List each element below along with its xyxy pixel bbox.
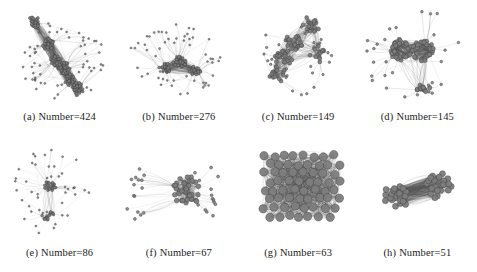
graph-nodes [263,16,333,96]
panel-label: Number=424 [38,111,96,122]
graph-edges [367,12,458,97]
panel-label: Number=63 [280,247,332,258]
graph-panel-e: (e)Number=86 [0,136,119,272]
network-graph-h [358,136,477,246]
network-graph-e [0,136,119,246]
panel-tag: (b) [142,111,155,122]
panel-label: Number=149 [277,111,335,122]
network-graph-b [119,0,238,110]
panel-tag: (g) [264,247,277,258]
panel-tag: (h) [383,247,396,258]
network-graph-d [358,0,477,110]
panel-caption: (e)Number=86 [26,248,93,259]
panel-caption: (f)Number=67 [146,248,212,259]
panel-label: Number=67 [160,247,212,258]
panel-tag: (d) [381,111,394,122]
panel-caption: (d)Number=145 [381,112,454,123]
panel-caption: (a)Number=424 [23,112,96,123]
graph-panel-g: (g)Number=63 [239,136,358,272]
graph-edges [23,17,103,98]
panel-label: Number=145 [396,111,454,122]
network-graph-f [119,136,238,246]
panel-tag: (f) [146,247,157,258]
panel-tag: (c) [262,111,274,122]
network-graph-a [0,0,119,110]
graph-panel-a: (a)Number=424 [0,0,119,136]
network-graph-g [239,136,358,246]
panel-tag: (e) [26,247,38,258]
panel-caption: (b)Number=276 [142,112,215,123]
panel-tag: (a) [23,111,35,122]
graph-panel-d: (d)Number=145 [358,0,477,136]
network-graph-figure: (a)Number=424(b)Number=276(c)Number=149(… [0,0,477,272]
panel-label: Number=51 [399,247,451,258]
panel-label: Number=276 [158,111,216,122]
panel-caption: (c)Number=149 [262,112,335,123]
panel-caption: (g)Number=63 [264,248,332,259]
network-graph-c [239,0,358,110]
panel-label: Number=86 [41,247,93,258]
graph-panel-h: (h)Number=51 [358,136,477,272]
graph-panel-b: (b)Number=276 [119,0,238,136]
graph-panel-f: (f)Number=67 [119,136,238,272]
panel-caption: (h)Number=51 [383,248,451,259]
graph-panel-c: (c)Number=149 [239,0,358,136]
